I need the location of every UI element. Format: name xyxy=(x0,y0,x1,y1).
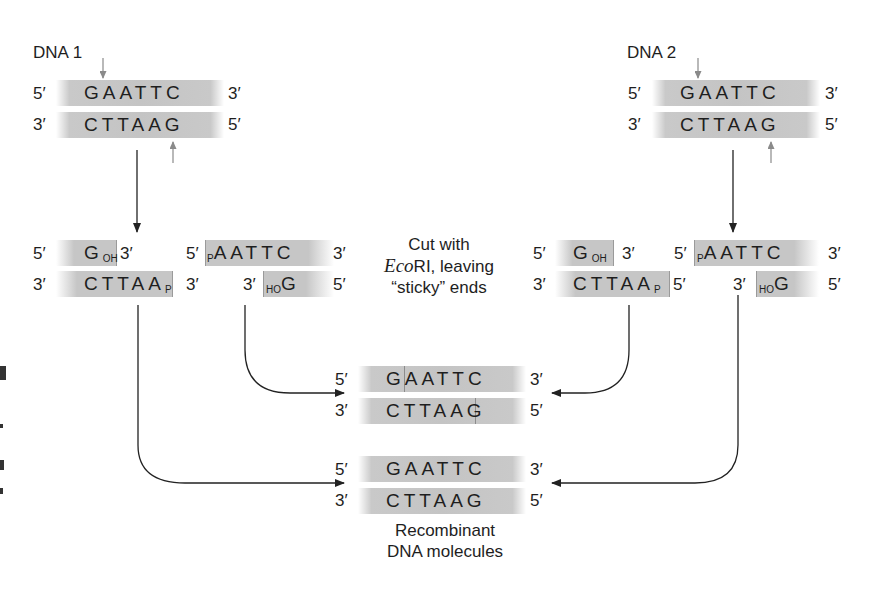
ligation-arrow-icon xyxy=(552,295,738,483)
sequence: CTTAAG xyxy=(680,112,780,138)
end-label: 3′ xyxy=(825,84,838,104)
end-label: 3′ xyxy=(533,275,546,295)
end-label: 3′ xyxy=(733,275,746,295)
recombinant-caption: Recombinant DNA molecules xyxy=(370,520,520,562)
caption-line: Recombinant xyxy=(370,520,520,541)
sequence: GAATTC xyxy=(680,80,780,106)
sequence: CTTAAG xyxy=(386,398,486,424)
end-label: 3′ xyxy=(33,115,46,135)
sequence: CTTAAG xyxy=(84,112,184,138)
end-label: 5′ xyxy=(530,491,543,511)
page-edge-mark xyxy=(0,460,4,470)
end-label: 3′ xyxy=(622,244,635,264)
end-label: 5′ xyxy=(628,84,641,104)
sequence: HOG xyxy=(266,271,300,303)
end-label: 5′ xyxy=(825,115,838,135)
end-label: 5′ xyxy=(673,275,686,295)
end-label: 3′ xyxy=(120,244,133,264)
end-label: 3′ xyxy=(186,275,199,295)
end-label: 5′ xyxy=(828,275,841,295)
caption-line: Cut with xyxy=(376,234,502,255)
ligation-arrow-icon xyxy=(552,305,629,393)
sequence: HOG xyxy=(759,271,793,303)
sequence: GOH xyxy=(84,240,118,272)
sequence: PAATTC xyxy=(207,240,295,272)
end-label: 3′ xyxy=(335,491,348,511)
end-label: 5′ xyxy=(533,244,546,264)
page-edge-mark xyxy=(0,424,3,428)
end-label: 5′ xyxy=(674,244,687,264)
sequence: CTTAAG xyxy=(386,488,486,514)
end-label: 5′ xyxy=(228,115,241,135)
end-label: 3′ xyxy=(333,244,346,264)
end-label: 5′ xyxy=(33,84,46,104)
end-label: 5′ xyxy=(186,244,199,264)
sequence: GAATTC xyxy=(386,456,486,482)
end-label: 5′ xyxy=(33,244,46,264)
end-label: 3′ xyxy=(335,401,348,421)
sequence: CTTAAP xyxy=(573,271,661,303)
sequence: GAATTC xyxy=(386,366,486,392)
sequence: GAATTC xyxy=(84,80,184,106)
end-label: 3′ xyxy=(228,84,241,104)
caption-line: “sticky” ends xyxy=(376,277,502,298)
end-label: 3′ xyxy=(628,115,641,135)
end-label: 3′ xyxy=(243,275,256,295)
dna1-title: DNA 1 xyxy=(33,43,82,63)
page-edge-mark xyxy=(0,366,6,380)
ligation-arrow-icon xyxy=(245,305,344,393)
end-label: 5′ xyxy=(335,370,348,390)
end-label: 3′ xyxy=(530,370,543,390)
end-label: 5′ xyxy=(333,275,346,295)
end-label: 3′ xyxy=(828,244,841,264)
end-label: 3′ xyxy=(33,275,46,295)
dna2-title: DNA 2 xyxy=(627,43,676,63)
end-label: 5′ xyxy=(335,460,348,480)
caption-line: EcoRI, leaving xyxy=(376,255,502,277)
cut-caption: Cut with EcoRI, leaving “sticky” ends xyxy=(376,234,502,298)
ligation-arrow-icon xyxy=(138,305,344,483)
end-label: 3′ xyxy=(530,460,543,480)
page-edge-mark xyxy=(0,488,3,494)
sequence: CTTAAP xyxy=(84,271,172,303)
caption-line: DNA molecules xyxy=(370,541,520,562)
end-label: 5′ xyxy=(530,401,543,421)
sequence: PAATTC xyxy=(697,240,785,272)
sequence: GOH xyxy=(573,240,607,272)
